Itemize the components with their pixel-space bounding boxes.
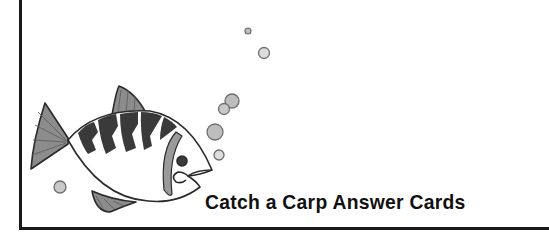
fish-eye <box>177 156 187 166</box>
bubble <box>207 124 223 140</box>
bubble <box>245 28 251 34</box>
bubble <box>214 150 224 160</box>
bubble <box>259 48 270 59</box>
bubble <box>54 181 66 193</box>
card-title: Catch a Carp Answer Cards <box>205 190 466 214</box>
bubble <box>219 104 230 115</box>
